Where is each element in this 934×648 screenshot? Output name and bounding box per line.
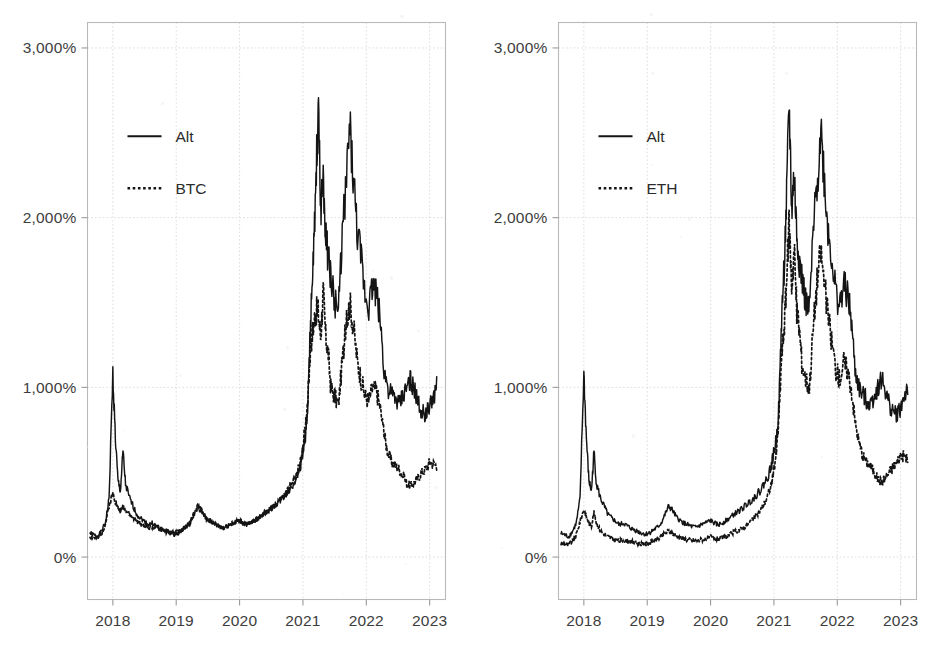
xtick-label: 2019 — [630, 612, 665, 629]
xtick-label: 2020 — [693, 612, 728, 629]
data-series-left — [90, 98, 437, 539]
ytick-labels-right: 0%1,000%2,000%3,000% — [494, 39, 548, 565]
ytick-label: 2,000% — [23, 209, 77, 226]
legend-right: AltETH — [599, 128, 678, 197]
legend-label-alt: Alt — [176, 128, 195, 145]
chart-svg-right: 0%1,000%2,000%3,000% 2018201920202021202… — [467, 0, 934, 648]
series-line-btc — [90, 283, 437, 539]
ytick-label: 0% — [54, 549, 77, 566]
series-line-alt — [90, 98, 437, 538]
ytick-label: 0% — [525, 549, 548, 566]
xtick-label: 2023 — [883, 612, 918, 629]
chart-panel-right: 0%1,000%2,000%3,000% 2018201920202021202… — [467, 0, 934, 648]
xtick-label: 2021 — [285, 612, 320, 629]
xtick-marks-left — [113, 600, 430, 606]
ytick-labels-left: 0%1,000%2,000%3,000% — [23, 39, 77, 565]
ytick-marks-left — [82, 48, 88, 557]
legend-left: AltBTC — [128, 128, 207, 197]
xtick-label: 2022 — [820, 612, 855, 629]
ytick-label: 1,000% — [494, 379, 548, 396]
legend-label-alt: Alt — [647, 128, 666, 145]
xtick-label: 2019 — [159, 612, 194, 629]
ytick-label: 1,000% — [23, 379, 77, 396]
xtick-label: 2022 — [349, 612, 384, 629]
xtick-label: 2018 — [566, 612, 601, 629]
data-series-right — [561, 110, 908, 546]
ytick-label: 3,000% — [494, 39, 548, 56]
xtick-label: 2023 — [412, 612, 447, 629]
two-panel-chart-figure: 0%1,000%2,000%3,000% 2018201920202021202… — [0, 0, 934, 648]
ytick-label: 3,000% — [23, 39, 77, 56]
ytick-label: 2,000% — [494, 209, 548, 226]
xtick-label: 2021 — [756, 612, 791, 629]
xtick-label: 2018 — [95, 612, 130, 629]
xtick-label: 2020 — [222, 612, 257, 629]
xtick-labels-right: 201820192020202120222023 — [566, 612, 918, 629]
chart-svg-left: 0%1,000%2,000%3,000% 2018201920202021202… — [0, 0, 467, 648]
chart-panel-left: 0%1,000%2,000%3,000% 2018201920202021202… — [0, 0, 467, 648]
xtick-marks-right — [584, 600, 901, 606]
legend-label-btc: BTC — [176, 180, 207, 197]
ytick-marks-right — [553, 48, 559, 557]
series-line-alt — [561, 110, 908, 538]
xtick-labels-left: 201820192020202120222023 — [95, 612, 447, 629]
legend-label-eth: ETH — [647, 180, 678, 197]
